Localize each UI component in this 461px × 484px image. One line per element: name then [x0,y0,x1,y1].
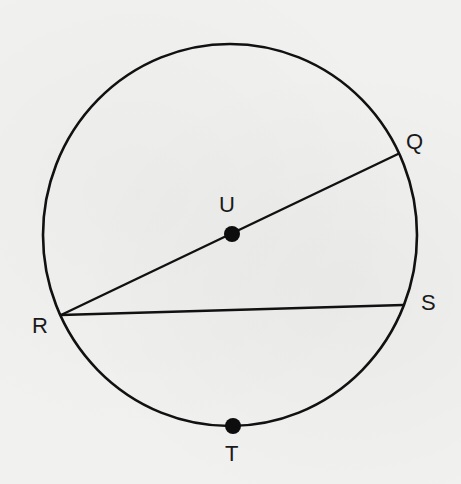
point-t-dot [225,418,241,434]
label-u: U [219,194,235,216]
circle-diagram [0,0,461,484]
label-q: Q [406,131,423,153]
label-t: T [225,443,238,465]
segment-rs [61,305,403,315]
label-r: R [32,315,48,337]
diagram-canvas: Q U R S T [0,0,461,484]
point-u-dot [224,226,240,242]
label-s: S [421,292,436,314]
